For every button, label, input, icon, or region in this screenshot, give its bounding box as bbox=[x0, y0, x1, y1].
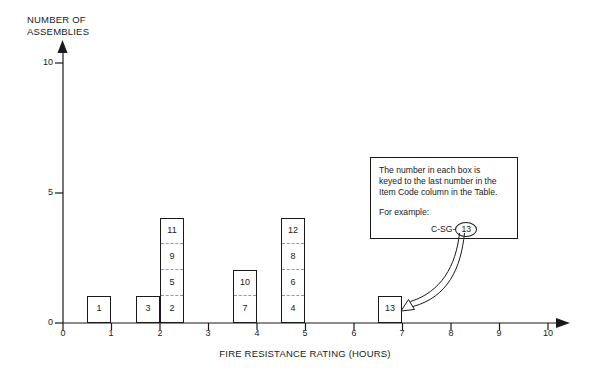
y-axis-title: NUMBER OF ASSEMBLIES bbox=[27, 14, 89, 37]
curved-callout-arrow-icon bbox=[401, 233, 465, 311]
bar-segment-item-9: 9 bbox=[161, 244, 183, 270]
bar-segment-item-2: 2 bbox=[161, 296, 183, 322]
note-example-label: For example: bbox=[379, 207, 512, 218]
x-tick-label-5: 5 bbox=[293, 328, 317, 338]
y-tick-label-0: 0 bbox=[29, 317, 53, 327]
bar-4.5-5: 4 6 8 12 bbox=[281, 218, 305, 323]
x-tick-label-1: 1 bbox=[99, 328, 123, 338]
x-tick-label-0: 0 bbox=[51, 328, 75, 338]
x-tick-label-2: 2 bbox=[148, 328, 172, 338]
bar-segment-item-4: 4 bbox=[282, 296, 304, 322]
bar-segment-item-3: 3 bbox=[137, 296, 159, 322]
bar-segment-item-5: 5 bbox=[161, 270, 183, 296]
bar-6.5-7: 13 bbox=[378, 296, 402, 323]
x-tick-label-10: 10 bbox=[536, 328, 560, 338]
x-tick-label-8: 8 bbox=[439, 328, 463, 338]
y-axis bbox=[55, 40, 68, 323]
x-tick-label-9: 9 bbox=[487, 328, 511, 338]
x-axis-title: FIRE RESISTANCE RATING (HOURS) bbox=[170, 348, 440, 359]
x-tick-label-3: 3 bbox=[196, 328, 220, 338]
circled-item-number: 13 bbox=[455, 222, 477, 237]
bar-0.5-1: 1 bbox=[87, 296, 111, 323]
y-axis-title-line1: NUMBER OF bbox=[27, 14, 89, 26]
bar-segment-item-11: 11 bbox=[161, 218, 183, 244]
chart-figure: NUMBER OF ASSEMBLIES FIRE RESISTANCE RAT… bbox=[0, 0, 597, 380]
note-line-1: The number in each box is bbox=[379, 165, 512, 176]
bar-segment-item-13: 13 bbox=[379, 296, 401, 322]
bar-segment-item-7: 7 bbox=[234, 296, 256, 322]
bar-segment-item-10: 10 bbox=[234, 270, 256, 296]
bar-2-2.5: 2 5 9 11 bbox=[160, 218, 184, 323]
bar-segment-item-12: 12 bbox=[282, 218, 304, 244]
bar-segment-item-6: 6 bbox=[282, 270, 304, 296]
y-axis-title-line2: ASSEMBLIES bbox=[27, 26, 89, 38]
item-code-prefix: C-SG- bbox=[431, 224, 455, 235]
y-tick-label-10: 10 bbox=[29, 57, 53, 67]
note-line-3: Item Code column in the Table. bbox=[379, 187, 512, 198]
x-axis-right-arrow-icon bbox=[556, 318, 570, 328]
note-box: The number in each box is keyed to the l… bbox=[370, 157, 518, 239]
bar-segment-item-1: 1 bbox=[88, 296, 110, 322]
bar-1.5-2: 3 bbox=[136, 296, 160, 323]
bar-3.5-4: 7 10 bbox=[233, 270, 257, 323]
bar-segment-item-8: 8 bbox=[282, 244, 304, 270]
note-line-2: keyed to the last number in the bbox=[379, 176, 512, 187]
y-tick-label-5: 5 bbox=[29, 187, 53, 197]
x-tick-label-7: 7 bbox=[390, 328, 414, 338]
note-example-code: C-SG- 13 bbox=[431, 222, 512, 237]
y-axis-up-arrow-icon bbox=[58, 40, 68, 53]
x-tick-label-4: 4 bbox=[245, 328, 269, 338]
x-tick-label-6: 6 bbox=[342, 328, 366, 338]
